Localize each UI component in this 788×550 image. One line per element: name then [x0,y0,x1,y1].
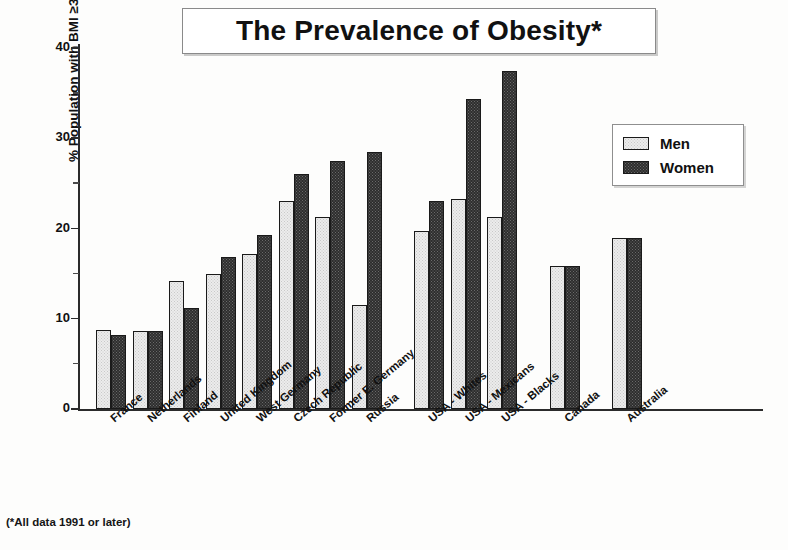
chart-footnote: (*All data 1991 or later) [6,516,131,528]
legend-swatch-women-icon [623,161,649,174]
bar-group [133,44,166,409]
y-minor-tick-25 [73,182,79,183]
bar-group [451,44,484,409]
bar-group [487,44,520,409]
bar-women [429,201,444,409]
legend-item-women: Women [623,156,714,178]
y-tick-label-30: 30 [32,129,70,144]
plot-area: % Population with BMI ≥30 010203040 Fran… [78,44,763,411]
legend-label-women: Women [660,159,714,176]
chart-canvas: The Prevalence of Obesity* % Population … [0,0,788,550]
bar-group [550,44,583,409]
bar-women [148,331,163,409]
y-tick-label-10: 10 [32,310,70,325]
bar-series-container [80,44,763,409]
y-tick-20 [71,228,79,230]
bar-group [169,44,202,409]
y-tick-40 [71,47,79,49]
bar-women [502,71,517,409]
y-tick-label-0: 0 [32,400,70,415]
bar-men [451,199,466,409]
y-tick-30 [71,137,79,139]
bar-women [627,238,642,409]
bar-group [206,44,239,409]
bar-group [352,44,385,409]
legend-box: Men Women [612,124,744,186]
bar-men [96,330,111,409]
legend-item-men: Men [623,132,690,154]
y-minor-tick-15 [73,273,79,274]
bar-women [221,257,236,409]
y-minor-tick-35 [73,92,79,93]
legend-swatch-men-icon [623,137,649,150]
y-minor-tick-5 [73,363,79,364]
bar-group [315,44,348,409]
bar-men [612,238,627,409]
legend-label-men: Men [660,135,690,152]
bar-men [487,217,502,409]
bar-men [315,217,330,409]
bar-group [414,44,447,409]
y-tick-10 [71,318,79,320]
bar-group [612,44,645,409]
y-tick-0 [71,408,79,410]
bar-group [242,44,275,409]
y-tick-label-20: 20 [32,220,70,235]
bar-group [279,44,312,409]
x-axis-line [78,409,763,411]
bar-women [565,266,580,409]
y-tick-label-40: 40 [32,39,70,54]
bar-women [111,335,126,409]
bar-women [466,99,481,409]
bar-men [550,266,565,409]
bar-group [96,44,129,409]
bar-men [414,231,429,409]
